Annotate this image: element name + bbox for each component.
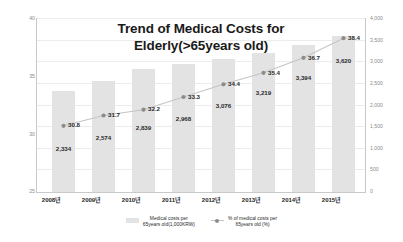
x-label-2010: 2010년	[110, 197, 154, 203]
bar-value-2015: 3,620	[324, 58, 364, 64]
line-marker-2013	[261, 71, 265, 75]
chart-container: 40 35 30 25 4,000 3,500 3,000 2,500 2,00…	[0, 0, 403, 242]
line-marker-2012	[221, 82, 225, 86]
left-axis-tick-2: 30	[9, 132, 35, 137]
right-axis-tick-6: 1,000	[370, 146, 400, 151]
bar-value-2009: 2,574	[84, 135, 124, 141]
legend-item-percent-share: % of medical costs per 65years old (%)	[211, 216, 277, 229]
line-marker-2009	[101, 113, 105, 117]
chart-title-line1: Trend of Medical Costs for	[70, 20, 332, 37]
left-axis-tick-0: 40	[9, 16, 35, 21]
pct-label-2014: 36.7	[308, 55, 320, 61]
pct-label-2012: 34.4	[228, 81, 240, 87]
legend-label-percent-share: % of medical costs per 65years old (%)	[228, 216, 277, 229]
right-axis-tick-1: 3,500	[370, 38, 400, 43]
pct-label-2011: 33.3	[188, 94, 200, 100]
right-axis-tick-0: 4,000	[370, 16, 400, 21]
bar-value-2013: 3,219	[244, 90, 284, 96]
pct-label-2008: 30.8	[68, 122, 80, 128]
bar-value-2014: 3,394	[284, 75, 324, 81]
legend-item-medical-costs: Medical costs per 65years old(1,000KRW)	[126, 216, 195, 229]
bar-value-2012: 3,076	[204, 103, 244, 109]
line-marker-2010	[141, 108, 145, 112]
chart-title-line2: Elderly(>65years old)	[70, 37, 332, 54]
line-marker-2014	[301, 56, 305, 60]
legend-line-marker-icon	[211, 218, 224, 223]
right-axis-tick-2: 3,000	[370, 59, 400, 64]
bar-value-2010: 2,839	[124, 125, 164, 131]
legend-label-medical-costs-line2: 65years old(1,000KRW)	[143, 222, 195, 228]
pct-label-2010: 32.2	[148, 106, 160, 112]
right-axis-tick-5: 1,500	[370, 124, 400, 129]
x-label-2014: 2014년	[270, 197, 314, 203]
right-axis-tick-7: 500	[370, 167, 400, 172]
right-axis-tick-3: 2,500	[370, 81, 400, 86]
x-label-2011: 2011년	[150, 197, 194, 203]
left-axis-tick-1: 35	[9, 74, 35, 79]
x-label-2009: 2009년	[70, 197, 114, 203]
right-axis-tick-8: 0	[370, 189, 400, 194]
pct-label-2009: 31.7	[108, 112, 120, 118]
x-label-2008: 2008년	[30, 197, 74, 203]
bar-value-2011: 2,968	[164, 116, 204, 122]
chart-title: Trend of Medical Costs for Elderly(>65ye…	[70, 20, 332, 55]
pct-label-2013: 35.4	[268, 70, 280, 76]
pct-label-2015: 38.4	[348, 35, 360, 41]
legend-bar-swatch-icon	[126, 218, 139, 223]
legend-label-medical-costs: Medical costs per 65years old(1,000KRW)	[143, 216, 195, 229]
legend-label-percent-share-line2: 65years old (%)	[228, 222, 277, 228]
bar-value-2008: 2,334	[44, 146, 84, 152]
right-axis-tick-4: 2,000	[370, 103, 400, 108]
line-marker-2008	[61, 124, 65, 128]
x-label-2015: 2015년	[310, 197, 354, 203]
left-axis-tick-3: 25	[9, 189, 35, 194]
x-label-2013: 2013년	[230, 197, 274, 203]
line-marker-2015	[341, 36, 345, 40]
chart-legend: Medical costs per 65years old(1,000KRW) …	[0, 216, 403, 229]
x-label-2012: 2012년	[190, 197, 234, 203]
line-marker-2011	[181, 95, 185, 99]
